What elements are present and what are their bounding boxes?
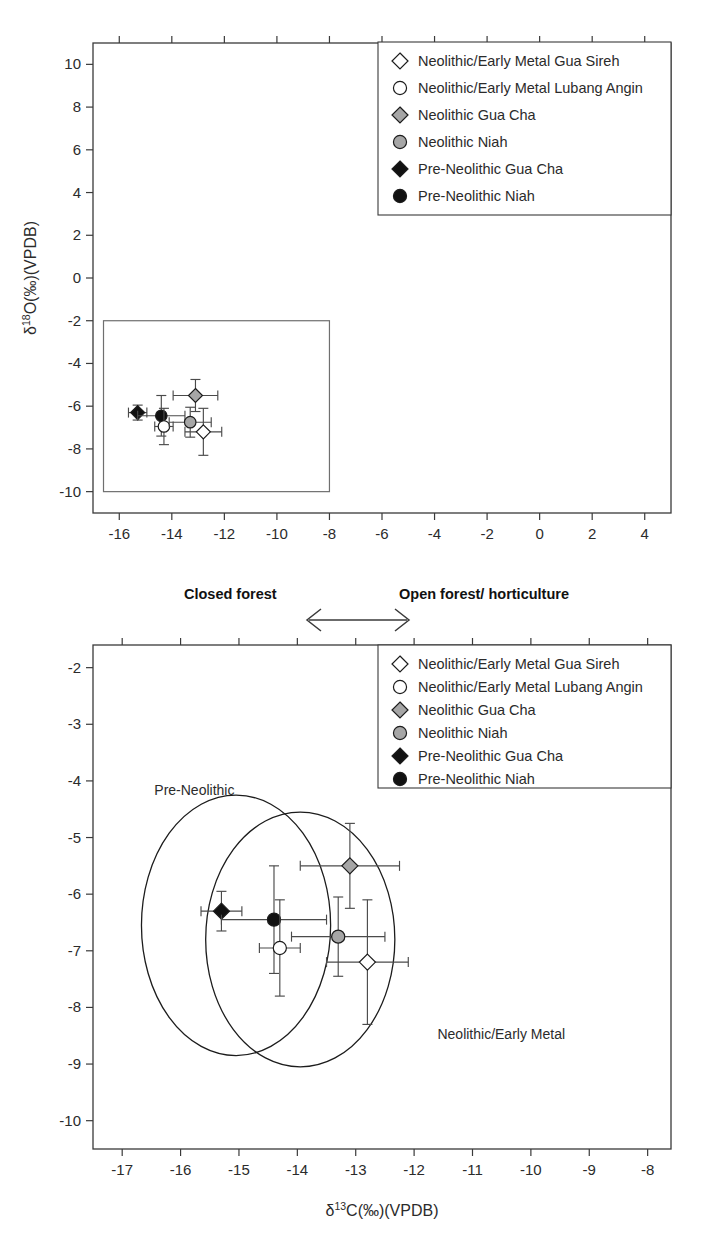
- y-tick-label: 10: [64, 55, 81, 72]
- bottom-panel: -17-16-15-14-13-12-11-10-9-8-10-9-8-7-6-…: [59, 638, 671, 1219]
- legend-item-label: Pre-Neolithic Gua Cha: [418, 748, 564, 764]
- marker-diamond: [196, 425, 210, 439]
- marker-diamond: [188, 389, 202, 403]
- legend-item-label: Pre-Neolithic Niah: [418, 188, 535, 204]
- legend-marker-circle: [393, 726, 406, 739]
- y-tick-label: 4: [73, 184, 81, 201]
- y-tick-label: -8: [68, 998, 81, 1015]
- x-tick-label: -14: [161, 525, 183, 542]
- group-annotation-label: Neolithic/Early Metal: [437, 1026, 565, 1042]
- x-tick-label: 0: [535, 525, 543, 542]
- data-point-nem_gua_sireh: [327, 900, 409, 1025]
- y-tick-label: 2: [73, 226, 81, 243]
- x-tick-label: -8: [323, 525, 336, 542]
- x-tick-label: -12: [403, 1161, 425, 1178]
- legend-marker-circle: [393, 81, 406, 94]
- legend-item-pre_gua_cha: Pre-Neolithic Gua Cha: [392, 748, 564, 764]
- group-ellipse: [141, 795, 330, 1055]
- x-tick-label: -16: [170, 1161, 192, 1178]
- y-tick-label: -2: [68, 312, 81, 329]
- y-tick-label: 6: [73, 141, 81, 158]
- x-tick-label: -17: [111, 1161, 133, 1178]
- legend-item-nem_lubang_angin: Neolithic/Early Metal Lubang Angin: [393, 80, 642, 96]
- x-tick-label: -13: [345, 1161, 367, 1178]
- data-point-neo_gua_cha: [300, 823, 399, 908]
- y-tick-label: -6: [68, 397, 81, 414]
- x-tick-label: -2: [480, 525, 493, 542]
- x-tick-label: 2: [588, 525, 596, 542]
- top-panel: -16-14-12-10-8-6-4-2024-10-8-6-4-2024681…: [20, 36, 671, 542]
- bottom-panel-data-points: [201, 823, 408, 1024]
- marker-diamond: [359, 954, 375, 970]
- isotope-figure: -16-14-12-10-8-6-4-2024-10-8-6-4-2024681…: [0, 0, 705, 1245]
- y-tick-label: -4: [68, 772, 81, 789]
- double-arrow-icon: [307, 609, 409, 631]
- legend-item-nem_gua_sireh: Neolithic/Early Metal Gua Sireh: [392, 53, 619, 69]
- legend-item-label: Neolithic/Early Metal Gua Sireh: [418, 53, 619, 69]
- open-forest-label: Open forest/ horticulture: [399, 586, 569, 602]
- data-point-pre_niah: [221, 866, 326, 974]
- marker-circle: [156, 410, 167, 421]
- data-point-nem_lubang_angin: [259, 900, 300, 996]
- x-tick-label: -11: [462, 1161, 483, 1178]
- legend-item-pre_gua_cha: Pre-Neolithic Gua Cha: [392, 161, 564, 177]
- bottom-panel-group-ellipses: [141, 795, 394, 1067]
- figure-canvas: -16-14-12-10-8-6-4-2024-10-8-6-4-2024681…: [0, 0, 705, 1245]
- x-tick-label: -9: [583, 1161, 596, 1178]
- x-tick-label: 4: [641, 525, 649, 542]
- legend-marker-circle: [393, 189, 406, 202]
- marker-circle: [332, 930, 345, 943]
- y-tick-label: -10: [59, 1112, 81, 1129]
- y-tick-label: -2: [68, 659, 81, 676]
- top-panel-y-axis-title: δ18O(‰)(VPDB): [20, 221, 39, 335]
- y-tick-label: -4: [68, 354, 81, 371]
- x-tick-label: -4: [428, 525, 441, 542]
- group-annotation-label: Pre-Neolithic: [154, 782, 234, 798]
- x-tick-label: -12: [214, 525, 236, 542]
- y-tick-label: -9: [68, 1055, 81, 1072]
- legend-item-label: Neolithic Gua Cha: [418, 107, 537, 123]
- x-tick-label: -8: [641, 1161, 654, 1178]
- legend-item-label: Neolithic Niah: [418, 134, 507, 150]
- x-tick-label: -10: [266, 525, 288, 542]
- legend-item-label: Neolithic/Early Metal Gua Sireh: [418, 656, 619, 672]
- y-tick-label: -7: [68, 942, 81, 959]
- marker-diamond: [342, 858, 358, 874]
- legend-item-label: Pre-Neolithic Niah: [418, 771, 535, 787]
- legend-item-label: Neolithic Gua Cha: [418, 702, 537, 718]
- legend-marker-circle: [393, 135, 406, 148]
- closed-forest-label: Closed forest: [184, 586, 277, 602]
- legend-marker-circle: [393, 680, 406, 693]
- legend-item-nem_gua_sireh: Neolithic/Early Metal Gua Sireh: [392, 656, 619, 672]
- legend-item-nem_lubang_angin: Neolithic/Early Metal Lubang Angin: [393, 679, 642, 695]
- y-tick-label: -8: [68, 440, 81, 457]
- y-tick-label: 0: [73, 269, 81, 286]
- legend-item-label: Neolithic Niah: [418, 725, 507, 741]
- legend-item-label: Neolithic/Early Metal Lubang Angin: [418, 80, 643, 96]
- y-tick-label: -5: [68, 829, 81, 846]
- legend-item-label: Pre-Neolithic Gua Cha: [418, 161, 564, 177]
- marker-circle: [267, 913, 280, 926]
- marker-circle: [158, 421, 169, 432]
- group-ellipse: [206, 812, 395, 1067]
- marker-circle: [273, 941, 286, 954]
- data-point-neo_gua_cha: [173, 379, 218, 411]
- bottom-panel-legend: Neolithic/Early Metal Gua SirehNeolithic…: [378, 645, 671, 788]
- svg-text:δ18O(‰)(VPDB): δ18O(‰)(VPDB): [20, 221, 39, 335]
- top-panel-data-points: [128, 379, 221, 455]
- legend-marker-circle: [393, 772, 406, 785]
- x-tick-label: -14: [286, 1161, 308, 1178]
- x-tick-label: -6: [375, 525, 388, 542]
- top-panel-legend: Neolithic/Early Metal Gua SirehNeolithic…: [378, 42, 671, 215]
- marker-circle: [184, 416, 195, 427]
- x-tick-label: -15: [228, 1161, 250, 1178]
- y-tick-label: 8: [73, 98, 81, 115]
- forest-gradient-annotation: Closed forest Open forest/ horticulture: [184, 586, 569, 631]
- bottom-panel-x-axis-title: δ13C(‰)(VPDB): [325, 1200, 438, 1219]
- y-tick-label: -3: [68, 715, 81, 732]
- legend-item-label: Neolithic/Early Metal Lubang Angin: [418, 679, 643, 695]
- y-tick-label: -10: [59, 483, 81, 500]
- data-point-pre_gua_cha: [201, 891, 242, 931]
- x-tick-label: -16: [108, 525, 130, 542]
- y-tick-label: -6: [68, 885, 81, 902]
